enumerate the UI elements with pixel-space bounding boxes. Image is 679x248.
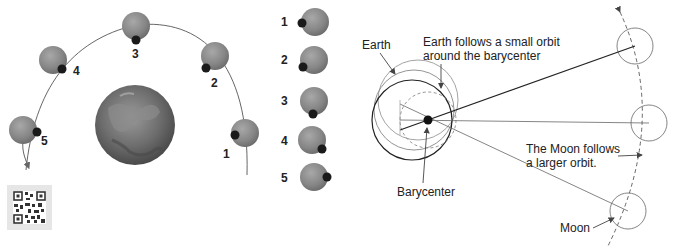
orbit-label-4: 4 (73, 64, 80, 78)
qr-code[interactable] (7, 185, 52, 230)
face-label-3: 3 (281, 94, 288, 108)
barycenter-arrow (423, 128, 427, 183)
face-sequence-2: 2 (281, 46, 328, 74)
orbit-moon-5: 5 (9, 116, 48, 148)
orbit-label-3: 3 (132, 47, 139, 61)
moon-orbit-dashed (608, 12, 642, 246)
earth-positions (372, 60, 458, 160)
moon-orbit-caption-1: The Moon follows (526, 142, 620, 156)
face-sequence-1: 1 (281, 8, 329, 36)
earth-globe (95, 85, 175, 165)
orbit-label-5: 5 (41, 134, 48, 148)
moon-orbit-caption-2: a larger orbit. (526, 156, 597, 170)
face-sequence-4: 4 (281, 126, 327, 154)
orbit-label-1: 1 (223, 147, 230, 161)
earth-orbit-caption-2: around the barycenter (423, 49, 540, 63)
earth-arrow (380, 53, 395, 74)
earth-orbit-caption-1: Earth follows a small orbit (423, 35, 560, 49)
orbit-moon-3: 3 (122, 12, 150, 61)
face-label-5: 5 (281, 171, 288, 185)
barycenter-diagram: Earth Earth follows a small orbit around… (340, 0, 679, 248)
moon-arrow (593, 218, 614, 228)
tidal-locking-svg: 1 2 3 4 5 1 2 (0, 0, 340, 248)
moon-label: Moon (560, 221, 590, 235)
face-label-2: 2 (281, 53, 288, 67)
barycenter-dot (424, 116, 433, 125)
face-sequence-3: 3 (281, 87, 328, 119)
orbit-label-2: 2 (211, 76, 218, 90)
tidal-locking-diagram: 1 2 3 4 5 1 2 (0, 0, 340, 248)
barycenter-svg: Earth Earth follows a small orbit around… (340, 0, 679, 248)
face-label-1: 1 (281, 15, 288, 29)
face-sequence-5: 5 (281, 163, 332, 191)
earth-label: Earth (362, 38, 391, 52)
face-label-4: 4 (281, 134, 288, 148)
orbit-moon-1: 1 (223, 119, 259, 161)
barycenter-label: Barycenter (397, 185, 455, 199)
